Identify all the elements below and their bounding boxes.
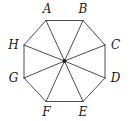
- radius-center-D: [65, 61, 106, 78]
- vertex-label-g: G: [9, 72, 19, 84]
- edge-BC: [83, 21, 105, 46]
- octagon-diagram: [0, 0, 130, 121]
- radius-center-F: [46, 61, 65, 102]
- vertex-label-f: F: [42, 106, 50, 118]
- radius-center-E: [65, 61, 84, 102]
- edge-FG: [24, 78, 46, 102]
- vertex-label-c: C: [111, 39, 120, 51]
- octagon-figure: ABCDEFGH: [0, 0, 130, 121]
- vertex-label-b: B: [79, 3, 88, 15]
- vertex-label-a: A: [43, 3, 52, 15]
- vertex-label-d: D: [111, 72, 121, 84]
- center-point-dot: [63, 59, 67, 63]
- edge-HA: [24, 21, 46, 46]
- edge-DE: [83, 78, 105, 102]
- radius-center-G: [24, 61, 65, 78]
- vertex-label-e: E: [79, 106, 88, 118]
- vertex-label-h: H: [8, 39, 18, 51]
